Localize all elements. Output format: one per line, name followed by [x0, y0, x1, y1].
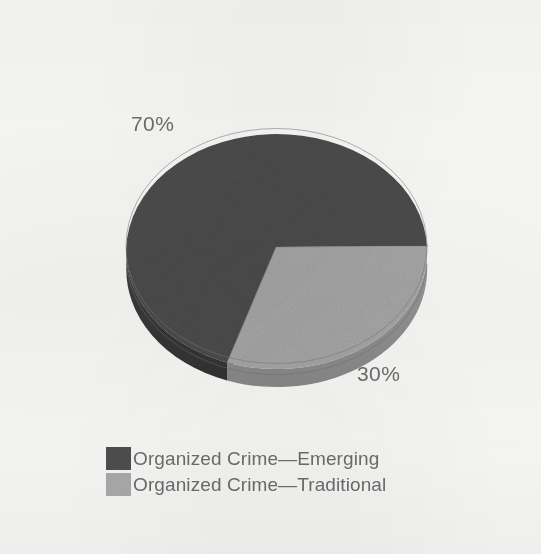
- legend-label-traditional: Organized Crime—Traditional: [133, 473, 386, 496]
- legend-swatch-emerging: [106, 447, 131, 470]
- data-label-traditional: 30%: [357, 362, 400, 386]
- pie-chart-figure: 70% 30% Organized Crime—Emerging Organiz…: [0, 0, 541, 554]
- chart-legend: Organized Crime—Emerging Organized Crime…: [106, 445, 386, 497]
- legend-swatch-traditional: [106, 473, 131, 496]
- pie-top-face: [126, 134, 427, 369]
- data-label-emerging: 70%: [131, 112, 174, 136]
- legend-item-emerging: Organized Crime—Emerging: [106, 445, 386, 471]
- legend-label-emerging: Organized Crime—Emerging: [133, 447, 379, 470]
- legend-item-traditional: Organized Crime—Traditional: [106, 471, 386, 497]
